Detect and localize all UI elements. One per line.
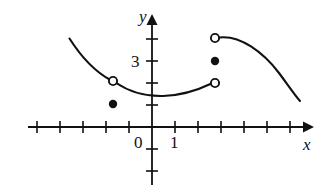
curve-left-branch [70, 39, 111, 81]
curve-middle-branch [116, 83, 212, 97]
function-curves [70, 37, 301, 101]
origin-label: 0 [134, 134, 143, 151]
open-circle-left-branch-end [109, 77, 117, 85]
y-axis-label: y [139, 8, 147, 25]
filled-points [109, 57, 219, 108]
coordinate-plane-svg [0, 0, 321, 192]
filled-dot-right [211, 57, 219, 65]
x-axis-arrowhead [303, 122, 314, 133]
y-axis-arrowhead [147, 14, 158, 25]
y-axis-group [146, 14, 158, 185]
graph-figure: y x 0 1 3 [0, 0, 321, 192]
filled-dot-left [109, 100, 117, 108]
x-axis-group [28, 121, 314, 133]
open-circle-middle-branch-end [211, 79, 219, 87]
open-circle-right-branch-start [211, 34, 219, 42]
x-tick-label-1: 1 [170, 134, 179, 151]
open-endpoints [109, 34, 219, 87]
y-tick-label-3: 3 [131, 53, 140, 70]
curve-right-branch [220, 37, 301, 101]
x-axis-label: x [303, 136, 311, 153]
